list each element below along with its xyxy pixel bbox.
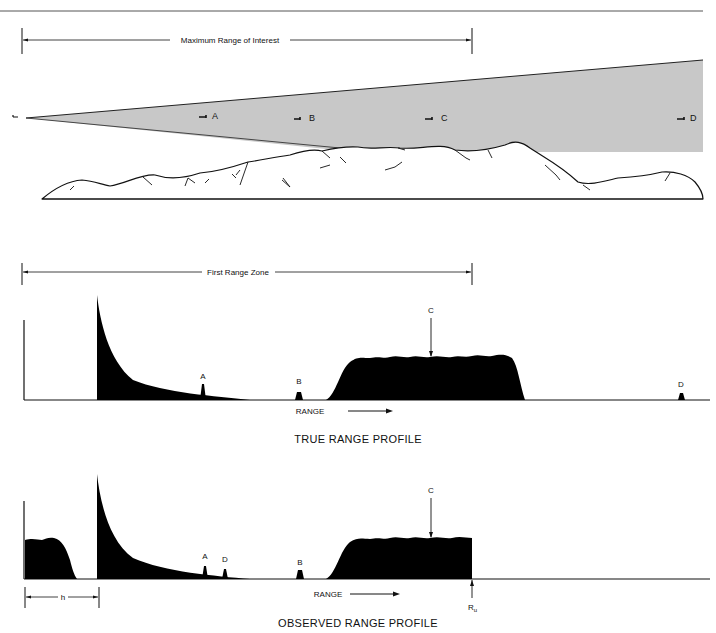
terrain-clutter-c [326,537,472,579]
terrain-clutter-c [326,355,525,400]
radar-beam [26,60,703,152]
peak-b [295,392,303,400]
first-range-zone-label: First Range Zone [207,268,269,277]
svg-text:C: C [428,306,434,315]
svg-text:RANGE: RANGE [314,590,342,599]
true-profile-caption: TRUE RANGE PROFILE [294,433,422,445]
svg-text:A: A [212,111,218,121]
svg-text:D: D [678,380,684,389]
main-bang-clutter [97,295,250,400]
first-range-zone-dimension: First Range Zone [22,263,472,285]
svg-text:RANGE: RANGE [296,407,324,416]
svg-text:h: h [61,593,65,602]
svg-text:A: A [202,552,208,561]
peak-a [202,566,208,579]
peak-a [200,384,206,400]
h-dimension: h [25,587,99,608]
folded-clutter [25,538,77,579]
svg-text:D: D [222,555,228,564]
observed-profile-plot: A D B C Ru [24,474,710,613]
svg-text:B: B [309,113,315,123]
ru-label: Ru [468,603,477,613]
true-profile-plot: A B C D [24,295,710,400]
max-range-label: Maximum Range of Interest [181,36,280,45]
range-arrow-true: RANGE [296,407,393,416]
observed-profile-caption: OBSERVED RANGE PROFILE [278,617,438,629]
svg-text:B: B [297,558,302,567]
svg-text:C: C [428,486,434,495]
peak-d-ambiguous [222,569,228,579]
svg-text:B: B [296,377,301,386]
svg-text:C: C [441,113,448,123]
max-range-dimension: Maximum Range of Interest [22,28,472,54]
range-ambiguity-diagram: Maximum Range of Interest A B C D [0,0,716,633]
peak-d [678,393,685,400]
peak-b [296,570,304,579]
range-arrow-observed: RANGE [314,590,400,599]
svg-text:A: A [200,372,206,381]
svg-text:D: D [690,113,697,123]
radar-icon [13,115,18,117]
